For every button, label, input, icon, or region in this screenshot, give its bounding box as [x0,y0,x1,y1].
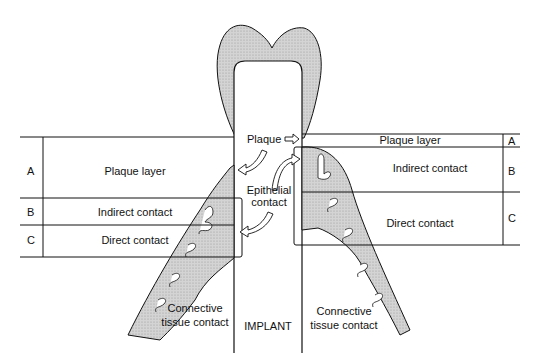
left-connective-label-1: Connective [155,302,235,314]
left-letter-b: B [27,206,34,218]
right-letter-a: A [508,135,515,147]
right-connective-label-2: tissue contact [304,319,384,331]
right-connective-label-1: Connective [304,305,384,317]
implant-label: IMPLANT [234,320,302,332]
right-letter-b: B [508,165,515,177]
epithelial-contact-label-2: contact [238,196,300,208]
right-label-plaque-layer: Plaque layer [330,134,490,146]
plaque-label: Plaque [247,133,281,145]
left-letter-c: C [27,234,35,246]
epithelial-contact-label-1: Epithelial [238,184,300,196]
left-label-plaque-layer: Plaque layer [60,165,210,177]
right-label-direct-contact: Direct contact [340,217,500,229]
left-label-indirect-contact: Indirect contact [60,206,210,218]
right-label-indirect-contact: Indirect contact [350,162,510,174]
left-connective-label-2: tissue contact [155,316,235,328]
left-letter-a: A [27,165,34,177]
right-letter-c: C [508,212,516,224]
left-label-direct-contact: Direct contact [60,234,210,246]
